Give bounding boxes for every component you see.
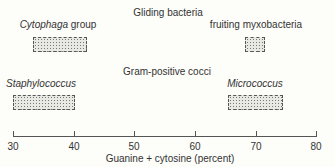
x-tick	[74, 131, 75, 137]
group-label-gram-positive: Gram-positive cocci	[123, 66, 211, 77]
x-tick-label: 80	[310, 141, 321, 152]
x-tick-label: 40	[68, 141, 79, 152]
x-tick-label: 70	[250, 141, 261, 152]
bar-label-cytophaga-rest: group	[68, 19, 96, 30]
bar-label-micrococcus: Micrococcus	[227, 78, 283, 89]
x-axis-title: Guanine + cytosine (percent)	[106, 153, 235, 164]
x-tick	[134, 131, 135, 137]
bar-micrococcus	[228, 95, 283, 110]
x-tick	[13, 131, 14, 137]
x-axis-line	[13, 136, 317, 137]
bar-label-cytophaga-italic: Cytophaga	[20, 19, 68, 30]
x-tick	[316, 131, 317, 137]
bar-label-staphylococcus: Staphylococcus	[6, 78, 76, 89]
bar-cytophaga	[33, 37, 87, 52]
bar-staphylococcus	[13, 95, 75, 110]
bar-label-myxobacteria: fruiting myxobacteria	[210, 19, 302, 30]
bar-label-cytophaga: Cytophaga group	[20, 19, 97, 30]
bar-myxobacteria	[245, 37, 265, 52]
x-tick-label: 60	[189, 141, 200, 152]
group-label-gliding: Gliding bacteria	[133, 7, 202, 18]
x-tick-label: 50	[128, 141, 139, 152]
x-tick	[195, 131, 196, 137]
x-tick	[256, 131, 257, 137]
x-tick-label: 30	[7, 141, 18, 152]
